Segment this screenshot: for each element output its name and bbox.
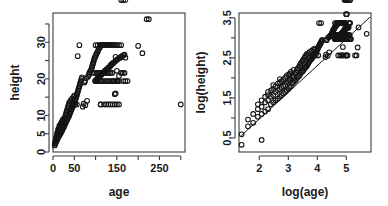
y-tick-label: 20	[35, 73, 47, 85]
scatter-panel-age-height: 05015025005102030ageheight	[0, 0, 194, 206]
x-axis-title: age	[109, 185, 130, 199]
data-points-layer	[239, 0, 369, 147]
data-point	[341, 45, 346, 50]
data-point	[77, 43, 82, 48]
y-tick-label: 5	[35, 131, 47, 137]
data-points-layer	[52, 0, 183, 148]
left-plot-svg: 05015025005102030ageheight	[0, 0, 194, 206]
right-plot-svg: 23450.51.52.53.5log(age)log(height)	[194, 0, 388, 206]
regression-line	[241, 17, 370, 136]
data-point	[251, 112, 256, 117]
data-point	[364, 31, 369, 36]
y-tick-label: 10	[35, 109, 47, 121]
scatter-panel-logage-logheight: 23450.51.52.53.5log(age)log(height)	[194, 0, 388, 206]
y-tick-label: 0.5	[221, 130, 233, 145]
data-point	[115, 68, 120, 73]
data-point	[246, 117, 251, 122]
x-tick-label: 0	[50, 162, 56, 174]
y-axis-title: log(height)	[194, 52, 208, 114]
x-tick-label: 5	[343, 162, 349, 174]
data-point-outlier	[239, 142, 244, 147]
data-point	[75, 54, 80, 59]
data-point-outlier	[259, 138, 264, 143]
data-point	[140, 51, 145, 56]
x-tick-label: 4	[314, 162, 321, 174]
data-point	[85, 98, 90, 103]
figure-container: 05015025005102030ageheight 23450.51.52.5…	[0, 0, 388, 206]
data-point	[178, 102, 183, 107]
y-tick-label: 30	[35, 36, 47, 48]
x-tick-label: 3	[285, 162, 291, 174]
y-axis-title: height	[8, 65, 22, 101]
data-point	[259, 104, 264, 109]
y-tick-label: 2.5	[221, 50, 233, 65]
x-tick-label: 250	[150, 162, 168, 174]
y-tick-label: 0	[35, 149, 47, 155]
x-tick-label: 50	[68, 162, 80, 174]
x-tick-label: 2	[256, 162, 262, 174]
data-point	[136, 44, 141, 49]
y-tick-label: 3.5	[221, 10, 233, 25]
x-axis-title: log(age)	[282, 185, 329, 199]
data-point	[355, 45, 360, 50]
x-tick-label: 150	[108, 162, 126, 174]
y-tick-label: 1.5	[221, 90, 233, 105]
